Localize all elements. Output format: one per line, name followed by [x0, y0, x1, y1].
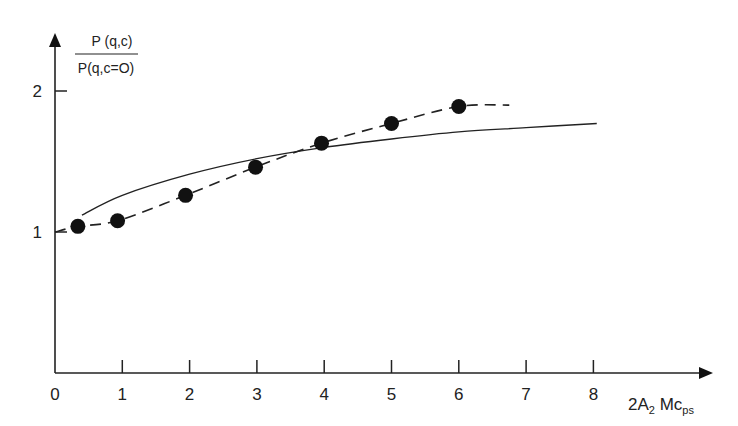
y-axis-arrow-icon	[49, 33, 61, 47]
x-tick-label: 0	[50, 385, 59, 404]
chart: 01234567812P (q,c)P(q,c=O)2A2 Mcps	[0, 0, 738, 426]
data-point	[178, 188, 193, 203]
x-tick-label: 5	[387, 385, 396, 404]
y-label-numerator: P (q,c)	[92, 33, 133, 49]
x-tick-label: 6	[454, 385, 463, 404]
data-point	[451, 99, 466, 114]
x-tick-label: 2	[185, 385, 194, 404]
x-axis-arrow-icon	[699, 367, 713, 379]
x-tick-label: 4	[319, 385, 328, 404]
dashed-curve	[55, 105, 509, 232]
x-tick-label: 7	[521, 385, 530, 404]
y-tick-label: 2	[33, 82, 42, 101]
axes: 01234567812P (q,c)P(q,c=O)2A2 Mcps	[33, 33, 713, 416]
data-point	[70, 219, 85, 234]
data-point	[110, 213, 125, 228]
y-tick-label: 1	[33, 223, 42, 242]
y-label-denominator: P(q,c=O)	[78, 60, 134, 76]
data-point	[384, 116, 399, 131]
x-tick-label: 8	[589, 385, 598, 404]
data-point	[314, 136, 329, 151]
data-point	[248, 160, 263, 175]
solid-curve	[82, 123, 597, 215]
x-label: 2A2 Mcps	[628, 395, 694, 416]
plot-area	[55, 99, 597, 234]
x-tick-label: 1	[118, 385, 127, 404]
x-tick-label: 3	[252, 385, 261, 404]
